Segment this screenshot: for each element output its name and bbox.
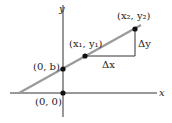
delta-y-label: Δy <box>138 38 151 49</box>
origin-label: (0, 0) <box>35 96 62 107</box>
x-axis-label: x <box>159 87 165 98</box>
point-1 <box>82 53 87 58</box>
point-1-label: (x₁, y₁) <box>69 38 103 49</box>
line <box>19 25 141 93</box>
slope-diagram: y x (0, 0) (0, b) (x₁, y₁) (x₂, y₂) Δx Δ… <box>0 0 172 123</box>
y-intercept-point <box>60 66 65 71</box>
y-axis-label: y <box>58 3 65 14</box>
y-intercept-label: (0, b) <box>33 61 60 72</box>
origin-point <box>60 90 65 95</box>
point-2 <box>132 26 137 31</box>
delta-x-label: Δx <box>102 59 115 70</box>
point-2-label: (x₂, y₂) <box>117 10 151 21</box>
